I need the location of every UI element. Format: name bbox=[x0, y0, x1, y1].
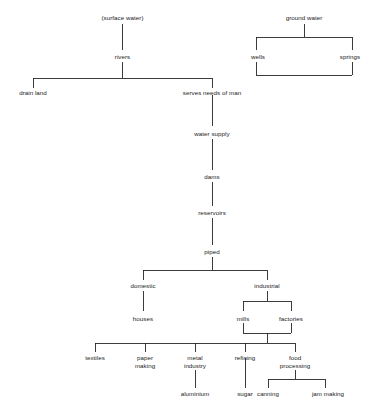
node-paper-making[interactable]: paper making bbox=[135, 354, 156, 369]
edge-mills-factories-merge bbox=[243, 323, 291, 343]
node-refining[interactable]: refining bbox=[235, 354, 256, 361]
node-metal-industry-line2: industry bbox=[184, 362, 207, 369]
edge-rivers-split bbox=[33, 62, 212, 88]
node-springs[interactable]: springs bbox=[340, 53, 360, 60]
node-piped[interactable]: piped bbox=[204, 248, 220, 255]
node-drain-land[interactable]: drain land bbox=[19, 89, 47, 96]
edge-food-processing-split bbox=[268, 370, 325, 388]
node-aluminium[interactable]: aluminium bbox=[181, 390, 210, 397]
node-rivers[interactable]: rivers bbox=[115, 53, 130, 60]
tree-diagram-svg: (surface water) ground water rivers well… bbox=[0, 0, 375, 416]
edge-industry-fanout bbox=[95, 343, 295, 352]
node-wells[interactable]: wells bbox=[250, 53, 265, 60]
node-dams[interactable]: dams bbox=[204, 173, 219, 180]
node-food-processing-line2: processing bbox=[280, 362, 311, 369]
node-sugar[interactable]: sugar bbox=[237, 390, 253, 397]
node-water-supply[interactable]: water supply bbox=[193, 130, 230, 137]
node-reservoirs[interactable]: reservoirs bbox=[198, 209, 226, 216]
node-domestic[interactable]: domestic bbox=[130, 282, 155, 289]
node-food-processing[interactable]: food processing bbox=[280, 354, 311, 369]
node-canning[interactable]: canning bbox=[257, 390, 280, 397]
node-jam-making[interactable]: jam making bbox=[311, 390, 345, 397]
edge-piped-split bbox=[143, 257, 267, 280]
node-ground-water[interactable]: ground water bbox=[286, 14, 323, 21]
node-houses[interactable]: houses bbox=[133, 315, 153, 322]
node-paper-making-line1: paper bbox=[137, 354, 153, 361]
node-industrial[interactable]: industrial bbox=[254, 282, 279, 289]
edge-wells-springs-merge bbox=[256, 62, 352, 75]
node-factories[interactable]: factories bbox=[279, 315, 303, 322]
node-mills[interactable]: mills bbox=[237, 315, 250, 322]
node-paper-making-line2: making bbox=[135, 362, 156, 369]
edge-ground-water-split bbox=[256, 24, 352, 50]
node-metal-industry[interactable]: metal industry bbox=[184, 354, 207, 369]
edge-industrial-split bbox=[243, 291, 291, 311]
node-surface-water[interactable]: (surface water) bbox=[101, 14, 143, 21]
node-food-processing-line1: food bbox=[289, 354, 302, 361]
node-metal-industry-line1: metal bbox=[187, 354, 202, 361]
node-textiles[interactable]: textiles bbox=[85, 354, 105, 361]
node-serves-needs-of-man[interactable]: serves needs of man bbox=[183, 89, 242, 96]
diagram-canvas: (surface water) ground water rivers well… bbox=[0, 0, 375, 416]
